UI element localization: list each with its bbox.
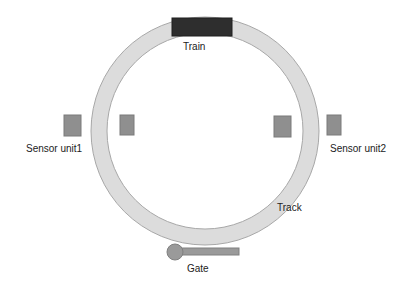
sensor-unit2-inner-block bbox=[274, 116, 291, 137]
gate-arm bbox=[180, 248, 239, 255]
train-label: Train bbox=[183, 42, 205, 52]
sensor-unit1-label: Sensor unit1 bbox=[26, 144, 82, 154]
sensor-unit1-inner-block bbox=[120, 115, 134, 135]
sensor-unit2-label: Sensor unit2 bbox=[330, 144, 386, 154]
train bbox=[172, 18, 232, 36]
gate-label: Gate bbox=[187, 264, 209, 274]
sensor-unit2-outer-block bbox=[327, 115, 341, 135]
gate bbox=[167, 244, 239, 260]
sensor-unit1-outer-block bbox=[64, 115, 81, 136]
gate-pivot bbox=[167, 244, 183, 260]
track-label: Track bbox=[277, 203, 302, 213]
